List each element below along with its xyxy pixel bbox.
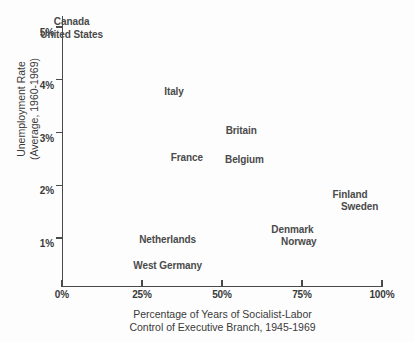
- data-point-label: Italy: [164, 86, 184, 97]
- x-tick-label: 25%: [132, 289, 152, 300]
- x-axis-title-line-2: Control of Executive Branch, 1945-1969: [62, 321, 383, 334]
- x-tick-mark: [221, 280, 222, 287]
- data-point-label: Belgium: [225, 153, 264, 164]
- y-axis-title-line-1: Unemployment Rate: [15, 19, 28, 199]
- x-axis-title: Percentage of Years of Socialist-Labor C…: [62, 308, 383, 334]
- x-tick-label: 0%: [55, 289, 69, 300]
- data-point-label: Norway: [281, 236, 317, 247]
- data-point-label: Netherlands: [139, 234, 196, 245]
- x-tick-mark: [381, 280, 382, 287]
- y-tick-mark: [56, 79, 63, 80]
- x-tick-label: 100%: [369, 289, 394, 300]
- data-point-label: Denmark: [271, 224, 313, 235]
- x-tick-mark: [61, 280, 62, 287]
- x-tick-mark: [141, 280, 142, 287]
- x-tick-label: 75%: [292, 289, 312, 300]
- x-axis-title-line-1: Percentage of Years of Socialist-Labor: [62, 308, 383, 321]
- data-point-label: Britain: [226, 124, 257, 135]
- data-point-label: France: [171, 152, 203, 163]
- y-tick-label: 1%: [2, 238, 54, 249]
- y-tick-mark: [56, 185, 63, 186]
- y-axis-title: Unemployment Rate (Average, 1960-1969): [15, 19, 41, 199]
- y-axis-line: [62, 16, 63, 287]
- x-tick-mark: [301, 280, 302, 287]
- y-axis-title-line-2: (Average, 1960-1969): [28, 19, 41, 199]
- y-tick-mark: [56, 237, 63, 238]
- scatter-chart: 1%2%3%4%5% 0%25%50%75%100% CanadaUnited …: [0, 0, 414, 342]
- x-tick-label: 50%: [212, 289, 232, 300]
- data-point-label: Finland: [333, 188, 368, 199]
- data-point-label: Canada: [54, 15, 90, 26]
- y-tick-mark: [56, 132, 63, 133]
- data-point-label: Sweden: [341, 200, 378, 211]
- data-point-label: United States: [40, 28, 103, 39]
- data-point-label: West Germany: [133, 259, 202, 270]
